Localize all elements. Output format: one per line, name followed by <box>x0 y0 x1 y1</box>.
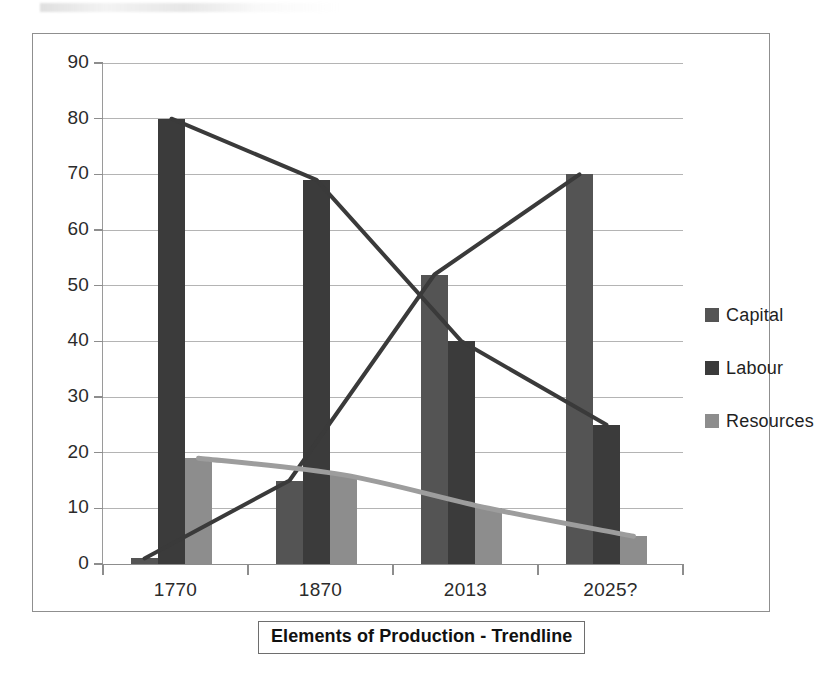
y-tick-label-40: 40 <box>45 329 89 351</box>
x-tick-label-2025: 2025? <box>551 579 671 601</box>
y-tick-label-50: 50 <box>45 274 89 296</box>
chart-legend: CapitalLabourResources <box>705 304 818 463</box>
x-tick-mark-0 <box>102 564 103 575</box>
legend-swatch-resources <box>705 414 719 428</box>
y-tick-label-30: 30 <box>45 385 89 407</box>
legend-label-capital: Capital <box>726 305 783 326</box>
x-tick-mark-4 <box>682 564 683 575</box>
y-tick-label-70: 70 <box>45 162 89 184</box>
y-tick-label-90: 90 <box>45 51 89 73</box>
x-tick-label-1770: 1770 <box>116 579 236 601</box>
chart-title: Elements of Production - Trendline <box>258 621 585 654</box>
trendline-labour <box>172 119 607 425</box>
y-tick-label-80: 80 <box>45 107 89 129</box>
y-tick-mark-50 <box>94 285 103 286</box>
y-tick-mark-30 <box>94 396 103 397</box>
x-tick-mark-2 <box>392 564 393 575</box>
legend-swatch-labour <box>705 361 719 375</box>
plot-area: 0102030405060708090 1770187020132025? <box>103 63 683 564</box>
chart-frame: 0102030405060708090 1770187020132025? Ca… <box>32 33 770 612</box>
x-tick-label-1870: 1870 <box>261 579 381 601</box>
legend-swatch-capital <box>705 308 719 322</box>
scan-artifact-top <box>40 3 340 12</box>
x-tick-mark-3 <box>537 564 538 575</box>
x-tick-label-2013: 2013 <box>406 579 526 601</box>
y-tick-mark-10 <box>94 508 103 509</box>
y-tick-mark-20 <box>94 452 103 453</box>
y-tick-mark-90 <box>94 62 103 63</box>
y-tick-mark-60 <box>94 229 103 230</box>
y-tick-mark-70 <box>94 174 103 175</box>
legend-label-resources: Resources <box>726 411 814 432</box>
trendline-layer <box>103 63 683 564</box>
y-tick-mark-40 <box>94 341 103 342</box>
legend-item-labour: Labour <box>705 357 818 379</box>
y-tick-label-0: 0 <box>45 552 89 574</box>
legend-item-capital: Capital <box>705 304 818 326</box>
y-tick-mark-80 <box>94 118 103 119</box>
y-tick-label-10: 10 <box>45 496 89 518</box>
x-tick-mark-1 <box>247 564 248 575</box>
legend-item-resources: Resources <box>705 410 818 432</box>
y-tick-label-60: 60 <box>45 218 89 240</box>
y-tick-label-20: 20 <box>45 441 89 463</box>
legend-label-labour: Labour <box>726 358 783 379</box>
trendline-resources <box>199 458 634 536</box>
